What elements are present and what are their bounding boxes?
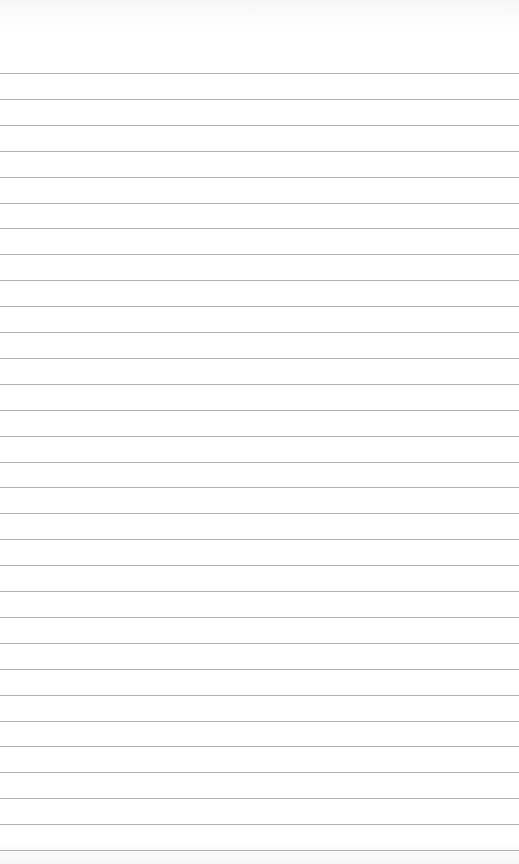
ruled-line: [0, 487, 519, 488]
ruled-line: [0, 746, 519, 747]
ruled-line: [0, 436, 519, 437]
ruled-line: [0, 73, 519, 74]
ruled-line: [0, 513, 519, 514]
ruled-line: [0, 151, 519, 152]
ruled-line: [0, 358, 519, 359]
ruled-line: [0, 254, 519, 255]
ruled-line: [0, 280, 519, 281]
ruled-line: [0, 798, 519, 799]
ruled-line: [0, 99, 519, 100]
ruled-line: [0, 824, 519, 825]
ruled-line: [0, 695, 519, 696]
ruled-line: [0, 125, 519, 126]
ruled-line: [0, 565, 519, 566]
ruled-line: [0, 384, 519, 385]
ruled-line: [0, 410, 519, 411]
ruled-line: [0, 306, 519, 307]
ruled-line: [0, 177, 519, 178]
ruled-line: [0, 617, 519, 618]
ruled-line: [0, 850, 519, 851]
ruled-line: [0, 539, 519, 540]
ruled-line: [0, 669, 519, 670]
ruled-line: [0, 772, 519, 773]
ruled-line: [0, 203, 519, 204]
lined-paper-sheet: [0, 0, 519, 864]
ruled-line: [0, 721, 519, 722]
ruled-line: [0, 462, 519, 463]
ruled-line: [0, 643, 519, 644]
ruled-line: [0, 228, 519, 229]
ruled-line: [0, 591, 519, 592]
ruled-line: [0, 332, 519, 333]
